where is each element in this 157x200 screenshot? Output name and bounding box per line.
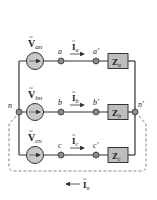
tilde-vbn: ~ — [29, 84, 33, 92]
node-b — [58, 109, 64, 115]
label-node-n: n — [8, 101, 12, 110]
label-node-b: b — [58, 98, 62, 107]
label-node-c: c — [58, 141, 62, 150]
label-node-a-prime: a' — [93, 47, 99, 56]
label-node-b-prime: b' — [93, 98, 99, 107]
node-n-prime — [132, 109, 138, 115]
source-vbn — [27, 104, 44, 121]
tilde-van: ~ — [29, 33, 33, 41]
label-node-a: a — [58, 47, 62, 56]
node-a — [58, 58, 64, 64]
label-node-c-prime: c' — [93, 141, 99, 150]
tilde-vcn: ~ — [29, 127, 33, 135]
node-n — [16, 109, 22, 115]
current-arrows — [66, 54, 84, 184]
node-a-prime — [93, 58, 99, 64]
label-node-n-prime: n' — [138, 100, 144, 109]
node-c — [58, 152, 64, 158]
circuit-diagram: Van ~ Vbn ~ Vcn ~ a a' b b' c c' n n' Ia… — [0, 0, 157, 200]
source-vcn — [27, 147, 44, 164]
node-c-prime — [93, 152, 99, 158]
source-van — [27, 53, 44, 70]
node-b-prime — [93, 109, 99, 115]
